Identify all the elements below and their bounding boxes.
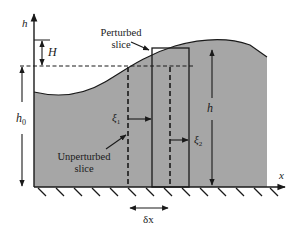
ground-hatching bbox=[38, 188, 278, 196]
unperturbed-slice-label: Unperturbed slice bbox=[48, 151, 120, 175]
horizontal-axis-label: x bbox=[279, 170, 284, 181]
h0-label: h0 bbox=[16, 113, 26, 128]
xi2-label: ξ2 bbox=[194, 134, 202, 150]
h-label: h bbox=[207, 103, 213, 114]
vertical-axis-label: h bbox=[22, 18, 28, 29]
delta-x-label: δx bbox=[143, 214, 154, 225]
xi1-label: ξ1 bbox=[112, 112, 120, 128]
perturbed-slice-label: Perturbed slice bbox=[89, 27, 153, 51]
H-label: H bbox=[48, 47, 57, 58]
